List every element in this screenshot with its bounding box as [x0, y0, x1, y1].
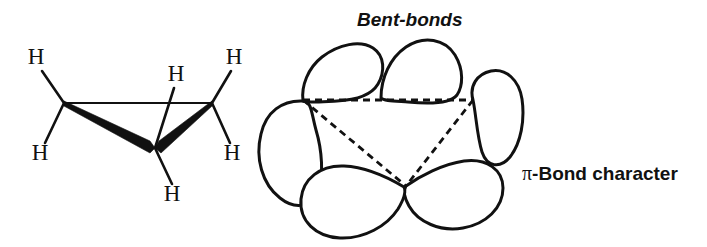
ch-bond-lower-right: [212, 103, 230, 143]
atom-label-h-upper-left: H: [28, 44, 45, 69]
chemistry-figure: H H H H H H: [0, 0, 707, 247]
atom-label-h-lower-left: H: [32, 140, 49, 165]
pi-bond-character-text: -Bond character: [532, 163, 678, 184]
ch-bond-upper-left: [42, 71, 64, 103]
orbital-lobe-bottom: [301, 166, 405, 238]
ring-bond-right-front-wedge: [155, 101, 212, 153]
figure-canvas: H H H H H H: [0, 0, 707, 247]
orbital-lobe-right-upper: [472, 71, 523, 165]
orbital-lobe-top-right: [381, 40, 462, 103]
orbital-lobe-top-left: [303, 44, 383, 102]
ch-bond-bottom-front: [155, 148, 172, 184]
atom-label-h-upper-right: H: [226, 44, 243, 69]
cyclopropane-perspective-structure: H H H H H H: [28, 44, 243, 206]
atom-label-h-lower-right: H: [224, 140, 241, 165]
atom-label-h-upper-center: H: [168, 61, 185, 86]
ring-bond-left-front-wedge: [64, 101, 155, 153]
ch-bond-lower-left: [45, 103, 64, 143]
caption-bent-bonds: Bent-bonds: [357, 9, 463, 30]
ch-bond-upper-right: [212, 71, 231, 103]
pi-symbol: π: [522, 162, 532, 184]
atom-label-h-bottom-front: H: [164, 181, 181, 206]
bent-bond-orbital-diagram: [259, 40, 523, 238]
caption-pi-bond-character: π-Bond character: [522, 162, 678, 184]
